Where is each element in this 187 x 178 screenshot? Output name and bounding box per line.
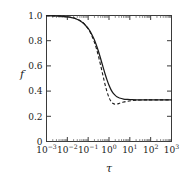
y-tick-label-0: 0 xyxy=(37,137,43,147)
line-chart: 10−310−210−1100101102103 00.20.40.60.81.… xyxy=(0,0,187,178)
x-axis-label: τ xyxy=(106,162,113,175)
y-tick-label-3: 0.6 xyxy=(28,61,43,71)
figure-container: 10−310−210−1100101102103 00.20.40.60.81.… xyxy=(0,0,187,178)
y-tick-label-1: 0.2 xyxy=(28,112,42,122)
y-tick-label-2: 0.4 xyxy=(28,86,43,96)
y-tick-label-5: 1.0 xyxy=(28,11,43,21)
y-tick-label-4: 0.8 xyxy=(28,36,43,46)
